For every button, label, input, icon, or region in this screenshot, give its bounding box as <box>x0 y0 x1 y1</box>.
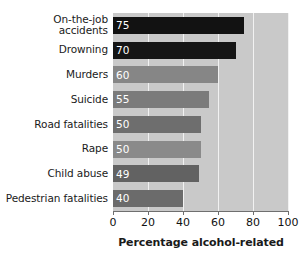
category-label-row: Murders <box>0 63 111 88</box>
bar-value-label: 50 <box>113 119 129 130</box>
bar-chart: On-the-job accidents Drowning Murders Su… <box>0 0 302 265</box>
tick-mark <box>288 211 289 215</box>
bar-row: 60 <box>113 63 288 88</box>
category-axis-labels: On-the-job accidents Drowning Murders Su… <box>0 13 111 211</box>
x-tick-label: 60 <box>211 216 225 229</box>
bar-value-label: 75 <box>113 20 129 31</box>
bar-row: 70 <box>113 38 288 63</box>
gridline <box>288 13 289 211</box>
category-label: Road fatalities <box>34 119 108 130</box>
category-label-row: On-the-job accidents <box>0 13 111 38</box>
bar-value-label: 55 <box>113 94 129 105</box>
category-label-row: Child abuse <box>0 162 111 187</box>
bar-row: 50 <box>113 112 288 137</box>
category-label-row: Drowning <box>0 38 111 63</box>
bar-value-label: 70 <box>113 45 129 56</box>
category-label: Drowning <box>59 44 108 55</box>
tick-mark <box>253 211 254 215</box>
x-tick-label: 80 <box>246 216 260 229</box>
bars-layer: 75 70 60 55 50 <box>113 13 288 211</box>
category-label: Child abuse <box>48 168 108 179</box>
bar-value-label: 60 <box>113 70 129 81</box>
category-label: Murders <box>66 69 108 80</box>
bar: 50 <box>113 141 201 158</box>
x-axis-title: Percentage alcohol-related <box>113 236 289 249</box>
bar-value-label: 50 <box>113 144 129 155</box>
tick-mark <box>113 211 114 215</box>
category-label: Suicide <box>71 94 108 105</box>
bar-value-label: 40 <box>113 193 129 204</box>
bar: 40 <box>113 190 183 207</box>
x-tick-label: 0 <box>110 216 117 229</box>
bar-row: 50 <box>113 137 288 162</box>
bar-row: 55 <box>113 87 288 112</box>
x-axis-line <box>113 211 289 212</box>
category-label-row: Road fatalities <box>0 112 111 137</box>
category-label-row: Rape <box>0 137 111 162</box>
x-tick-label: 40 <box>176 216 190 229</box>
bar: 70 <box>113 42 236 59</box>
bar: 49 <box>113 165 199 182</box>
category-label-row: Pedestrian fatalities <box>0 186 111 211</box>
x-tick-label: 20 <box>141 216 155 229</box>
category-label: Pedestrian fatalities <box>6 193 108 204</box>
bar-row: 40 <box>113 186 288 211</box>
bar: 55 <box>113 91 209 108</box>
bar: 60 <box>113 66 218 83</box>
tick-mark <box>218 211 219 215</box>
bar-value-label: 49 <box>113 169 129 180</box>
bar-row: 49 <box>113 162 288 187</box>
tick-mark <box>148 211 149 215</box>
category-label: On-the-job accidents <box>53 14 108 37</box>
category-label: Rape <box>82 143 108 154</box>
plot-area: 75 70 60 55 50 <box>113 13 288 211</box>
bar: 75 <box>113 17 244 34</box>
category-label-row: Suicide <box>0 87 111 112</box>
bar: 50 <box>113 116 201 133</box>
tick-mark <box>183 211 184 215</box>
x-tick-label: 100 <box>278 216 299 229</box>
bar-row: 75 <box>113 13 288 38</box>
